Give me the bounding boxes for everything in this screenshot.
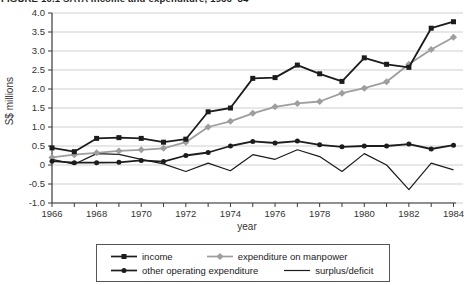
svg-text:2.0: 2.0 [32,83,45,94]
svg-text:0.5: 0.5 [32,140,45,151]
svg-text:1.5: 1.5 [32,102,45,113]
svg-text:-1.0: -1.0 [29,197,45,208]
svg-text:1972: 1972 [175,208,196,219]
legend-item-manpower: expenditure on manpower [207,251,348,262]
chart-legend: income expenditure on manpower other ope… [96,244,390,282]
manpower-line-marker-icon [207,252,233,261]
svg-text:1980: 1980 [354,208,375,219]
svg-text:1966: 1966 [41,208,62,219]
svg-text:1970: 1970 [131,208,152,219]
svg-text:1976: 1976 [264,208,285,219]
svg-text:1.0: 1.0 [32,121,45,132]
x-axis-title: year [52,221,442,232]
income-line-marker-icon [111,252,137,261]
series-income [50,19,457,154]
svg-text:1984: 1984 [443,208,464,219]
chart-canvas: 4.03.53.02.52.01.51.00.50-0.5-1.01966196… [0,0,468,240]
surplus-deficit-line-icon [284,266,310,275]
svg-text:2.5: 2.5 [32,64,45,75]
legend-item-income: income [111,251,173,262]
svg-text:1974: 1974 [220,208,241,219]
legend-item-other-expenditure: other operating expenditure [111,265,258,276]
legend-label-manpower: expenditure on manpower [238,251,348,262]
svg-text:0: 0 [40,159,45,170]
legend-row-2: other operating expenditure surplus/defi… [97,263,389,277]
other-expenditure-line-marker-icon [111,266,137,275]
legend-label-other-expenditure: other operating expenditure [142,265,258,276]
legend-item-surplus-deficit: surplus/deficit [284,265,373,276]
legend-label-income: income [142,251,173,262]
legend-label-surplus-deficit: surplus/deficit [315,265,373,276]
svg-text:-0.5: -0.5 [29,178,45,189]
svg-text:3.0: 3.0 [32,45,45,56]
legend-row-1: income expenditure on manpower [97,249,389,263]
gridlines [48,13,463,203]
svg-text:1982: 1982 [398,208,419,219]
svg-text:4.0: 4.0 [32,7,45,18]
y-axis-title: S$ millions [4,77,15,125]
svg-text:3.5: 3.5 [32,26,45,37]
svg-text:1968: 1968 [86,208,107,219]
x-axis-tick-labels: 1966196819701972197419761978198019821984 [41,203,464,219]
y-axis-tick-labels: 4.03.53.02.52.01.51.00.50-0.5-1.0 [29,7,45,208]
svg-text:1978: 1978 [309,208,330,219]
